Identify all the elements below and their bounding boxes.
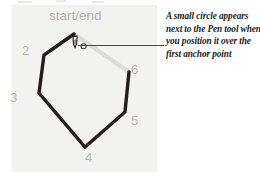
caption-line-1: A small circle appears <box>166 10 260 23</box>
callout-leader-line <box>78 45 164 46</box>
caption-line-4: first anchor point <box>166 48 260 61</box>
start-end-label: start/end <box>49 9 102 23</box>
caption-line-3: you position it over the <box>166 35 260 48</box>
anchor-number-5: 5 <box>131 114 138 127</box>
scan-speck-left <box>18 1 32 3</box>
callout-caption: A small circle appears next to the Pen t… <box>166 10 260 60</box>
pen-tool-cursor <box>73 36 77 47</box>
anchor-number-3: 3 <box>10 91 17 104</box>
hexagon-path-drawing <box>12 5 157 172</box>
anchor-number-4: 4 <box>85 151 92 164</box>
scan-speck-right <box>92 1 104 3</box>
anchor-number-2: 2 <box>22 44 29 57</box>
figure-container: start/end 2 3 4 5 6 A small circle appea… <box>0 0 260 172</box>
caption-line-2: next to the Pen tool when <box>166 23 260 36</box>
anchor-number-6: 6 <box>131 63 138 76</box>
scan-speck-mid <box>56 0 66 2</box>
